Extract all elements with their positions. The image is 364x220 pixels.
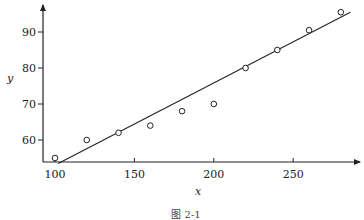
data-point xyxy=(84,137,90,143)
regression-line xyxy=(58,12,350,163)
data-point xyxy=(275,47,281,53)
x-axis-label: x xyxy=(195,185,202,198)
data-points xyxy=(52,9,343,160)
y-tick-label: 70 xyxy=(22,98,36,111)
y-tick-label: 80 xyxy=(22,62,36,75)
scatter-chart: 100150200250 60708090 x y 图 2-1 xyxy=(0,0,364,220)
y-tick-label: 60 xyxy=(22,134,36,147)
data-point xyxy=(306,27,312,33)
data-point xyxy=(211,101,217,107)
axes xyxy=(43,5,360,162)
data-point xyxy=(52,155,58,161)
fitted-line xyxy=(58,12,350,163)
x-tick-label: 100 xyxy=(45,168,66,181)
x-tick-label: 200 xyxy=(203,168,224,181)
y-axis-label: y xyxy=(6,72,14,85)
data-point xyxy=(147,123,153,129)
y-tick-label: 90 xyxy=(22,26,36,39)
data-point xyxy=(243,65,249,71)
data-point xyxy=(116,130,122,136)
figure-caption: 图 2-1 xyxy=(171,209,200,220)
data-point xyxy=(179,108,185,114)
data-point xyxy=(338,9,344,15)
x-tick-label: 250 xyxy=(283,168,304,181)
y-ticks: 60708090 xyxy=(22,26,43,147)
x-tick-label: 150 xyxy=(124,168,145,181)
